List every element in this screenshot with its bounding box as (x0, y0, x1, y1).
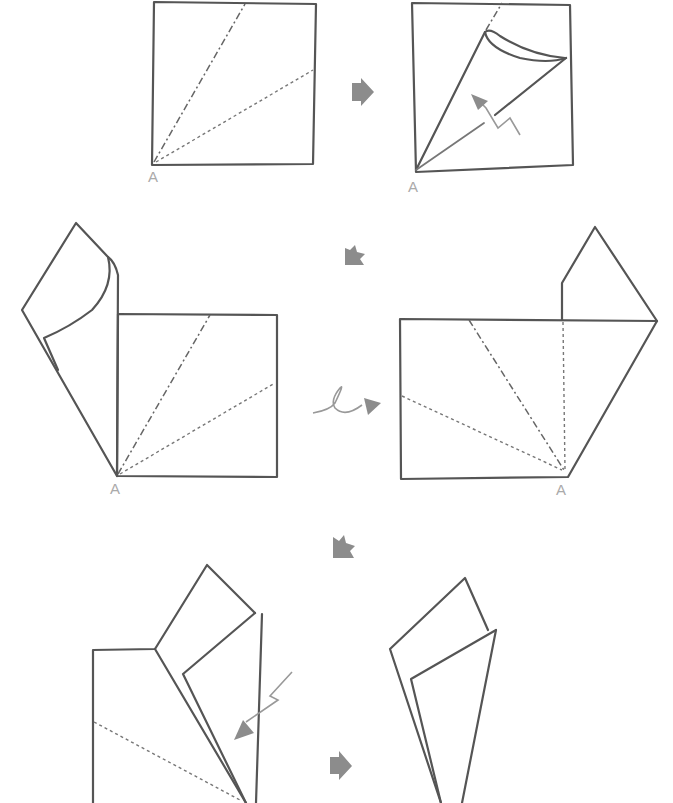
step-2: A (408, 3, 573, 195)
step-1: A (148, 2, 316, 185)
paper-square (412, 3, 573, 172)
valley-fold-line (402, 396, 562, 470)
mountain-fold-line (154, 4, 245, 162)
cone-edge (462, 630, 496, 803)
corner-label-a: A (556, 481, 566, 498)
valley-fold-line (156, 70, 313, 162)
inner-flap (183, 613, 255, 803)
fold-direction-arrow-icon (234, 672, 292, 740)
flap (562, 227, 657, 321)
paper-edge (155, 649, 246, 803)
valley-fold-line (120, 383, 275, 474)
corner-label-a: A (148, 168, 158, 185)
mountain-fold-line (469, 320, 564, 470)
folding-flap-edge (495, 58, 566, 115)
next-step-arrow-right-icon (330, 751, 352, 780)
step-6 (390, 578, 496, 803)
paper-outline (93, 565, 255, 803)
next-step-arrow-right-icon (352, 78, 374, 106)
step-3: A (22, 223, 277, 497)
cone-outer (390, 578, 488, 803)
valley-fold-line (563, 322, 565, 470)
turn-over-arrow-icon (313, 387, 381, 415)
corner-label-a: A (110, 480, 120, 497)
folding-flap-edge (416, 31, 565, 170)
flap-lower-edge (416, 123, 484, 170)
cone-inner-flap (411, 630, 496, 803)
origami-diagram: A A A (0, 0, 673, 803)
flap-curl (44, 257, 110, 370)
corner-label-a: A (408, 178, 418, 195)
step-4: A (400, 227, 657, 498)
valley-fold-line (94, 722, 240, 800)
next-step-arrow-down-left-icon (345, 245, 365, 265)
step-5 (93, 565, 292, 803)
mountain-fold-line (118, 315, 210, 474)
paper-edge (256, 614, 262, 803)
next-step-arrow-down-left-icon (333, 535, 355, 558)
folded-flap (22, 223, 118, 476)
paper-square (152, 2, 316, 165)
mountain-fold-line (486, 3, 502, 30)
